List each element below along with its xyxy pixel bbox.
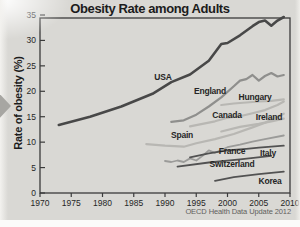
x-tick-label: 1975	[62, 198, 81, 208]
series-line-france	[165, 136, 284, 163]
series-line-hungary	[221, 99, 283, 105]
nav-arrow-icon	[0, 91, 11, 121]
y-tick-label: 0	[31, 188, 36, 198]
photo-light-right	[295, 0, 300, 220]
photo-light-topleft	[0, 0, 70, 40]
y-tick-label: 25	[27, 61, 37, 71]
x-tick-label: 1990	[156, 198, 175, 208]
y-tick-label: 20	[27, 86, 37, 96]
series-line-england	[171, 73, 283, 122]
x-tick-label: 1970	[31, 198, 50, 208]
slide: Obesity Rate among Adults 05101520253035…	[0, 0, 300, 227]
series-line-usa	[59, 17, 284, 125]
y-tick-label: 5	[31, 163, 36, 173]
series-line-spain	[146, 114, 283, 147]
y-tick-label: 15	[27, 112, 37, 122]
source-caption: OECD Health Data Update 2012	[185, 207, 291, 216]
x-tick-label: 1985	[124, 198, 143, 208]
photo-white-bottom	[0, 220, 300, 227]
y-tick-label: 10	[27, 137, 37, 147]
series-line-ireland	[221, 119, 283, 132]
x-tick-label: 1980	[93, 198, 112, 208]
y-axis-title: Rate of obesity (%)	[12, 52, 24, 154]
plot-frame	[40, 18, 290, 193]
series-line-korea	[215, 172, 284, 181]
